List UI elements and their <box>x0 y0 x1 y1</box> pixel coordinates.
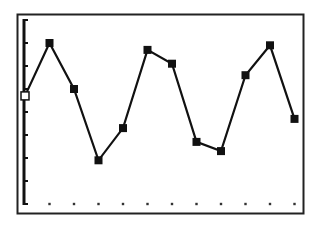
x-axis-ticks <box>48 203 295 205</box>
x-tick-dot <box>146 203 148 205</box>
x-tick-dot <box>220 203 222 205</box>
data-point-marker <box>242 71 250 79</box>
data-point-marker <box>21 92 29 100</box>
data-point-marker <box>70 85 78 93</box>
data-point-marker <box>144 46 152 54</box>
data-point-marker <box>193 138 201 146</box>
data-point-marker <box>266 41 274 49</box>
x-tick-dot <box>97 203 99 205</box>
data-point-marker <box>119 124 127 132</box>
x-tick-dot <box>269 203 271 205</box>
x-tick-dot <box>73 203 75 205</box>
x-tick-dot <box>171 203 173 205</box>
x-tick-dot <box>244 203 246 205</box>
x-tick-dot <box>122 203 124 205</box>
x-tick-dot <box>195 203 197 205</box>
line-chart <box>0 0 318 227</box>
data-line <box>25 43 295 160</box>
x-tick-dot <box>48 203 50 205</box>
data-point-marker <box>217 147 225 155</box>
chart-frame <box>18 15 304 214</box>
data-point-marker <box>46 39 54 47</box>
x-tick-dot <box>293 203 295 205</box>
data-point-marker <box>168 60 176 68</box>
data-point-marker <box>95 156 103 164</box>
data-point-marker <box>291 115 299 123</box>
